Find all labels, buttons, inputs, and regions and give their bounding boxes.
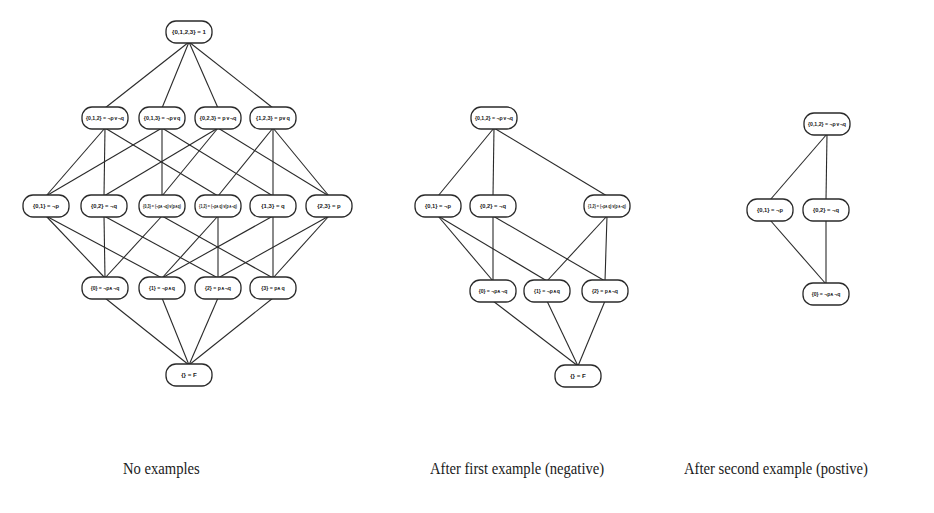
node-label: {0,1,3} = ¬p∨q [144, 115, 180, 121]
edge [273, 216, 329, 278]
lattice-node: {1,2,3} = p∨q [250, 107, 296, 129]
node-label: {0,1} = ¬p [425, 203, 451, 209]
node-label: {0} = ¬p∧¬q [91, 285, 120, 291]
lattice-node: {0,2,3} = p∨¬q [195, 107, 241, 129]
edge [162, 128, 218, 196]
node-label: {1} = ¬p∧q [534, 288, 560, 294]
lattice-node: {0,2} = ¬q [81, 195, 127, 217]
edge [438, 128, 494, 196]
node-label: {0} = ¬p∧¬q [812, 291, 841, 297]
node-label: {1,3} = q [261, 203, 284, 209]
edge [105, 42, 189, 108]
lattice-node: {0,1} = ¬p [23, 195, 69, 217]
caption-after-first-example: After first example (negative) [430, 459, 604, 479]
node-label: {0,2,3} = p∨¬q [200, 115, 236, 121]
node-label: {0,1,2} = ¬p∨¬q [475, 115, 513, 121]
node-label: {} = F [570, 373, 586, 379]
caption-no-examples: No examples [123, 459, 200, 479]
node-label: {0,1,2} = ¬p∨¬q [808, 121, 846, 127]
lattice-node: {1} = ¬p∧q [139, 277, 185, 299]
lattice-node: {0,1} = ¬p [415, 195, 461, 217]
lattice-node: {0,1,2} = ¬p∨¬q [82, 107, 128, 129]
lattice-node: {0,1,2} = ¬p∨¬q [804, 113, 850, 135]
edge [104, 216, 105, 278]
edge [493, 128, 494, 196]
lattice-node: {1,2} = (¬p∧q)∨(p∧¬q) [195, 195, 241, 217]
lattice-diagram: {0,1,2,3} = 1{0,1,2} = ¬p∨¬q{0,1,3} = ¬p… [0, 0, 934, 513]
node-label: {0,2} = ¬q [813, 207, 839, 213]
edge [493, 216, 605, 281]
graph-edges-after-first-example [438, 128, 607, 366]
edge [162, 298, 189, 365]
node-label: {2} = p∧¬q [592, 288, 618, 294]
lattice-node: {2,3} = p [306, 195, 352, 217]
edge [189, 298, 218, 365]
edge [826, 134, 827, 200]
edge [493, 301, 578, 366]
lattice-node: {0,1} = ¬p [747, 199, 793, 221]
edge [105, 216, 162, 278]
edge [770, 220, 826, 284]
edge [438, 216, 493, 281]
node-label: {0,1,2} = ¬p∨¬q [86, 115, 124, 121]
lattice-node: {} = F [555, 365, 601, 387]
graph-nodes-after-first-example: {0,1,2} = ¬p∨¬q{0,1} = ¬p{0,2} = ¬q{1,2}… [415, 107, 630, 387]
node-label: {3} = p∧q [261, 285, 284, 291]
edge [46, 128, 105, 196]
edge [547, 301, 578, 366]
lattice-node: {0,2} = ¬q [470, 195, 516, 217]
edge [162, 42, 189, 108]
node-label: {0,1} = ¬p [33, 203, 59, 209]
edge [162, 216, 218, 278]
edge [189, 42, 218, 108]
node-label: {0,2} = ¬q [480, 203, 506, 209]
lattice-node: {0,2} = ¬q [803, 199, 849, 221]
node-label: {0,1} = ¬p [757, 207, 783, 213]
lattice-node: {1} = ¬p∧q [524, 280, 570, 302]
edge [770, 134, 827, 200]
edge [105, 298, 189, 365]
edge [547, 216, 607, 281]
lattice-node: {2} = p∧¬q [195, 277, 241, 299]
lattice-node: {0,1,2,3} = 1 [166, 21, 212, 43]
edge [104, 216, 218, 278]
edge [189, 42, 273, 108]
node-label: {1} = ¬p∧q [149, 285, 175, 291]
edge [494, 128, 607, 196]
edge [46, 216, 105, 278]
edge [578, 301, 605, 366]
node-label: {2} = p∧¬q [205, 285, 231, 291]
node-label: {0,1,2,3} = 1 [172, 29, 206, 35]
node-label: {1,2,3} = p∨q [256, 115, 290, 121]
lattice-node: {2} = p∧¬q [582, 280, 628, 302]
edge [189, 298, 273, 365]
node-label: {0,2} = ¬q [91, 203, 117, 209]
lattice-node: {0,1,2} = ¬p∨¬q [471, 107, 517, 129]
node-label: {2,3} = p [317, 203, 340, 209]
lattice-node: {1,3} = q [250, 195, 296, 217]
graph-nodes-no-examples: {0,1,2,3} = 1{0,1,2} = ¬p∨¬q{0,1,3} = ¬p… [23, 21, 352, 386]
node-label: {0} = ¬p∧¬q [479, 288, 508, 294]
edge [162, 128, 273, 196]
node-label: {1,2} = (¬p∧q)∨(p∧¬q) [588, 203, 626, 209]
edge [273, 128, 329, 196]
caption-after-second-example: After second example (postive) [684, 459, 868, 479]
lattice-node: {1,2} = (¬p∧q)∨(p∧¬q) [584, 195, 630, 217]
edge [218, 128, 273, 196]
node-label: {0,3} = (¬p∧¬q)∨(p∧q) [143, 203, 181, 209]
lattice-node: {} = F [166, 364, 212, 386]
edge [605, 216, 607, 281]
lattice-node: {0} = ¬p∧¬q [803, 283, 849, 305]
node-label: {1,2} = (¬p∧q)∨(p∧¬q) [199, 203, 237, 209]
lattice-node: {0,3} = (¬p∧¬q)∨(p∧q) [139, 195, 185, 217]
lattice-node: {0,1,3} = ¬p∨q [139, 107, 185, 129]
lattice-node: {0} = ¬p∧¬q [82, 277, 128, 299]
node-label: {} = F [181, 372, 197, 378]
lattice-node: {0} = ¬p∧¬q [470, 280, 516, 302]
lattice-node: {3} = p∧q [250, 277, 296, 299]
graph-nodes-after-second-example: {0,1,2} = ¬p∨¬q{0,1} = ¬p{0,2} = ¬q{0} =… [747, 113, 850, 305]
